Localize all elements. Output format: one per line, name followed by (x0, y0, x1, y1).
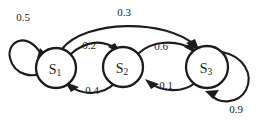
state-node-s1[interactable]: S1 (36, 48, 76, 88)
state-node-s3-subscript: 3 (208, 67, 213, 77)
edge-label-s2-to-s3: 0.6 (154, 40, 168, 52)
edge-label-s1-to-s2: 0.2 (82, 39, 96, 51)
state-node-s2[interactable]: S2 (103, 47, 143, 87)
state-node-s2-name: S (116, 61, 124, 76)
state-node-s1-subscript: 1 (57, 68, 62, 78)
markov-chain-diagram: 0.5 0.3 0.2 0.4 0.6 (0, 0, 264, 125)
state-node-s3-name: S (200, 61, 208, 76)
edge-label-s1-to-s3: 0.3 (117, 6, 131, 18)
state-transition-graph: 0.5 0.3 0.2 0.4 0.6 (0, 0, 264, 125)
edge-s3-to-s2: 0.1 (145, 79, 195, 91)
edge-s2-to-s1: 0.4 (65, 82, 115, 96)
edge-label-s2-to-s1: 0.4 (85, 84, 99, 96)
state-node-s1-name: S (49, 62, 57, 77)
state-node-s3[interactable]: S3 (186, 46, 228, 88)
state-node-s2-subscript: 2 (124, 67, 129, 77)
edge-label-s1-to-s1: 0.5 (16, 11, 30, 23)
edge-s3-to-s3-arrowhead (205, 90, 219, 99)
edge-label-s3-to-s2: 0.1 (159, 79, 173, 91)
edge-label-s3-to-s3: 0.9 (229, 103, 243, 115)
